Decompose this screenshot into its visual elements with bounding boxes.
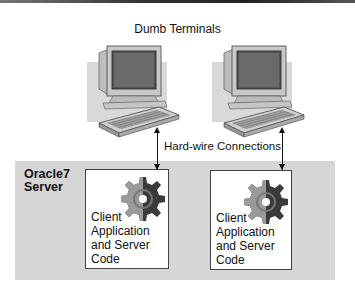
arrow-down-icon [279,164,285,170]
connection-label: Hard-wire Connections [164,140,281,152]
box-text-line: and Server [216,239,275,253]
arrow-down-icon [154,164,160,170]
box-text-line: Code [216,253,275,267]
server-label: Oracle7 Server [24,168,70,194]
box-text-line: Application [216,225,275,239]
computer-terminal-icon [220,43,312,139]
box-text: Client Application and Server Code [216,211,275,267]
diagram-title: Dumb Terminals [0,22,355,36]
client-app-box: Client Application and Server Code [210,170,292,270]
box-text: Client Application and Server Code [91,210,150,266]
box-text-line: Client [91,210,150,224]
server-label-line2: Server [24,181,70,194]
box-text-line: and Server [91,238,150,252]
box-text-line: Code [91,252,150,266]
top-rule [0,0,355,3]
client-app-box: Client Application and Server Code [85,169,169,269]
box-text-line: Application [91,224,150,238]
box-text-line: Client [216,211,275,225]
computer-terminal-icon [95,43,187,139]
